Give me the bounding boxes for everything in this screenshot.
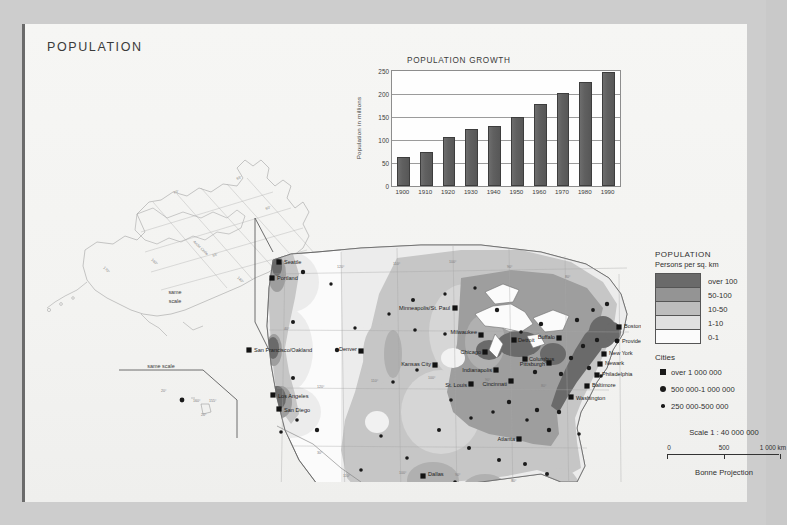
city-marker: [493, 367, 498, 372]
city-marker: [276, 259, 281, 264]
small-dot-icon: [661, 404, 665, 408]
hawaii-same-scale-label: same scale: [147, 363, 174, 369]
scale-tick-1000: [780, 454, 781, 459]
city-marker: [452, 305, 457, 310]
graticule-label: 100°: [428, 376, 436, 380]
chart-bar: [579, 82, 592, 186]
graticule-label: 120°: [317, 385, 325, 389]
city-marker: [276, 406, 281, 411]
graticule-label: 155°: [209, 399, 217, 403]
density-swatch: 1-10: [656, 316, 700, 330]
graticule-label: 110°: [343, 474, 351, 478]
city-marker: [584, 383, 589, 388]
large-dot-icon: [660, 386, 666, 392]
graticule-label: 100°: [399, 471, 407, 475]
scale-title: Scale 1 : 40 000 000: [661, 428, 787, 437]
density-swatch-label: over 100: [708, 276, 738, 285]
city-marker-icon: [655, 404, 671, 408]
city-label: Newark: [605, 360, 624, 366]
city-legend-label: 500 000-1 000 000: [671, 385, 735, 394]
density-swatch-label: 10-50: [708, 304, 727, 313]
city-label: Boston: [624, 323, 641, 329]
city-label: Baltimore: [592, 382, 616, 388]
city-label: Portland: [277, 275, 298, 281]
scale-num-0: 0: [667, 444, 671, 451]
city-marker: [516, 436, 521, 441]
chart-title: POPULATION GROWTH: [407, 56, 511, 65]
city-legend-rows: over 1 000 000500 000-1 000 000250 000-5…: [655, 365, 785, 413]
city-marker: [358, 348, 363, 353]
density-swatch: 50-100: [656, 288, 700, 302]
square-icon: [660, 369, 666, 375]
graticule-label: 160°: [150, 258, 159, 266]
legend-subtitle: Persons per sq. km: [655, 260, 785, 269]
density-swatch-label: 50-100: [708, 290, 732, 299]
chart-bar: [511, 117, 524, 186]
page-title: POPULATION: [47, 40, 143, 54]
density-swatch: over 100: [656, 274, 700, 288]
chart-bar: [602, 72, 615, 186]
chart-x-tick: 1960: [532, 188, 546, 195]
city-label: New York: [609, 350, 633, 356]
alaska-same-scale-label: same: [168, 289, 181, 295]
city-legend-label: 250 000-500 000: [671, 402, 728, 411]
city-legend-row: 250 000-500 000: [655, 399, 785, 413]
density-swatch-label: 0-1: [708, 332, 719, 341]
city-marker: [616, 324, 621, 329]
map-legend: POPULATION Persons per sq. km over 10050…: [655, 250, 785, 413]
population-growth-chart: POPULATION GROWTH Population in millions…: [355, 56, 635, 211]
legend-cities-heading: Cities: [655, 353, 785, 362]
graticule-label: 110°: [371, 379, 379, 383]
city-label: Providence: [622, 338, 641, 344]
city-label: Denver: [339, 346, 357, 352]
city-marker: [568, 394, 573, 399]
city-label: Pittsburgh: [520, 361, 545, 367]
chart-x-tick: 1910: [418, 188, 432, 195]
city-label: Detroit: [518, 337, 535, 343]
graticule-label: 70°: [173, 189, 180, 195]
city-marker: [508, 378, 513, 383]
chart-x-tick: 1930: [464, 188, 478, 195]
legend-title: POPULATION: [655, 250, 785, 259]
city-label: Chicago: [460, 349, 481, 355]
graticule-label: 40°: [284, 327, 290, 331]
city-legend-row: 500 000-1 000 000: [655, 382, 785, 396]
city-marker: [511, 337, 516, 342]
city-legend-row: over 1 000 000: [655, 365, 785, 379]
city-marker: [594, 372, 599, 377]
scale-num-1000: 1 000 km: [760, 444, 786, 451]
page-sheet: POPULATION: [22, 24, 747, 502]
city-marker-icon: [655, 386, 671, 392]
scale-block: Scale 1 : 40 000 000 0 500 1 000 km Bonn…: [661, 428, 787, 477]
density-swatch: 0-1: [656, 330, 700, 343]
city-marker: [246, 347, 251, 352]
city-label: Cincinnati: [482, 381, 507, 387]
city-label: Indianapolis: [462, 367, 492, 373]
chart-x-tick: 1990: [601, 188, 615, 195]
city-marker: [597, 361, 602, 366]
hawaii-inset: same scale 20° 160° 155° 20°: [119, 363, 237, 438]
city-label: Seattle: [284, 259, 301, 265]
graticule-label: 20°: [161, 389, 167, 393]
graticule-label: 160°: [193, 399, 201, 403]
chart-y-axis-label: Population in millions: [353, 70, 363, 185]
chart-y-tick: 150: [378, 114, 389, 121]
chart-y-tick: 100: [378, 137, 389, 144]
alaska-same-scale-label2: scale: [169, 298, 182, 304]
scale-bar: 0 500 1 000 km: [661, 445, 787, 465]
chart-bar: [488, 126, 501, 186]
chart-plot-area: 050100150200250: [391, 70, 621, 187]
city-legend-label: over 1 000 000: [671, 368, 722, 377]
chart-x-tick: 1950: [510, 188, 524, 195]
city-label: Dallas: [428, 471, 444, 477]
city-marker: [556, 335, 561, 340]
density-swatches: over 10050-10010-501-100-1: [655, 273, 701, 344]
graticule-label: 80°: [565, 275, 571, 279]
graticule-label: 80°: [541, 384, 547, 388]
chart-y-tick: 50: [382, 160, 389, 167]
scale-num-500: 500: [719, 444, 730, 451]
city-marker: [601, 351, 606, 356]
city-marker: [269, 275, 274, 280]
city-label: Buffalo: [538, 334, 555, 340]
city-label: Kansas City: [401, 361, 431, 367]
